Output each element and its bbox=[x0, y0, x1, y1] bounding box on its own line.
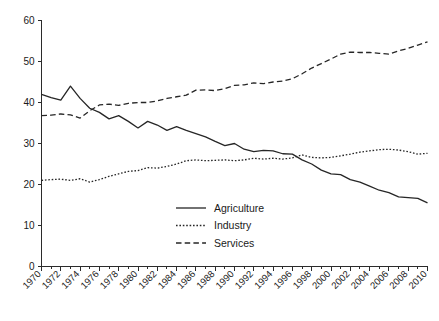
x-tick-label: 1982 bbox=[136, 268, 159, 291]
chart-container: 0102030405060 19701972197419761978198019… bbox=[0, 0, 439, 321]
x-tick-label: 2008 bbox=[387, 268, 410, 291]
x-axis: 1970197219741976197819801982198419861988… bbox=[20, 267, 429, 291]
series-lines bbox=[42, 42, 428, 203]
series-line-agriculture bbox=[42, 86, 428, 203]
legend-label-services: Services bbox=[214, 237, 254, 249]
series-line-services bbox=[42, 42, 428, 118]
x-tick-label: 1996 bbox=[271, 268, 294, 291]
line-chart: 0102030405060 19701972197419761978198019… bbox=[0, 0, 439, 321]
x-tick-label: 1992 bbox=[232, 268, 255, 291]
y-tick-label: 20 bbox=[23, 179, 35, 190]
x-tick-label: 1994 bbox=[252, 268, 275, 291]
x-tick-label: 1984 bbox=[155, 268, 178, 291]
x-tick-label: 1990 bbox=[213, 268, 236, 291]
x-tick-label: 2002 bbox=[329, 268, 352, 291]
x-tick-label: 1970 bbox=[20, 268, 43, 291]
x-tick-label: 2000 bbox=[310, 268, 333, 291]
y-tick-label: 40 bbox=[23, 97, 35, 108]
x-tick-label: 1988 bbox=[194, 268, 217, 291]
x-tick-label: 1998 bbox=[290, 268, 313, 291]
x-tick-label: 1978 bbox=[97, 268, 120, 291]
y-tick-label: 30 bbox=[23, 138, 35, 149]
y-axis: 0102030405060 bbox=[23, 15, 41, 272]
x-tick-label: 1986 bbox=[175, 268, 198, 291]
x-tick-label: 1976 bbox=[78, 268, 101, 291]
y-tick-label: 10 bbox=[23, 220, 35, 231]
chart-legend: AgricultureIndustryServices bbox=[176, 202, 264, 249]
legend-label-agriculture: Agriculture bbox=[214, 202, 264, 214]
y-tick-label: 60 bbox=[23, 15, 35, 26]
x-tick-label: 1980 bbox=[117, 268, 140, 291]
series-line-industry bbox=[42, 149, 428, 182]
legend-label-industry: Industry bbox=[214, 219, 252, 231]
y-tick-label: 50 bbox=[23, 56, 35, 67]
x-tick-label: 2010 bbox=[406, 268, 429, 291]
x-tick-label: 1972 bbox=[39, 268, 62, 291]
x-tick-label: 2006 bbox=[368, 268, 391, 291]
x-tick-label: 2004 bbox=[348, 268, 371, 291]
x-tick-label: 1974 bbox=[59, 268, 82, 291]
